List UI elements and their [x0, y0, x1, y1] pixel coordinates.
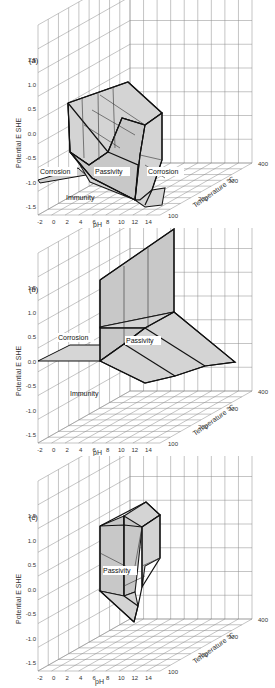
tick-label: -0.5 — [26, 611, 37, 617]
tick-label: 2 — [65, 675, 69, 681]
tick-label: -2 — [37, 675, 43, 681]
tick-label: 0.5 — [28, 562, 37, 568]
tick-label: 0 — [52, 675, 56, 681]
tick-label: 14 — [145, 219, 152, 225]
tick-label: 8 — [106, 219, 110, 225]
region-label-passivity: Passivity — [95, 168, 123, 176]
tick-label: 0 — [52, 219, 56, 225]
tick-label: -1.5 — [26, 432, 37, 438]
tick-label: -0.5 — [26, 155, 37, 161]
y-axis-ticks: 1.51.00.50.0-0.5-1.0-1.5 — [26, 513, 37, 666]
passivity-surface — [100, 229, 235, 383]
tick-label: -1.0 — [26, 180, 37, 186]
tick-label: 4 — [79, 447, 83, 453]
tick-label: 1.0 — [28, 538, 37, 544]
tick-label: 14 — [145, 675, 152, 681]
tick-label: 100 — [168, 213, 179, 219]
y-axis-label: Potential E SHE — [15, 345, 22, 396]
tick-label: 1.0 — [28, 82, 37, 88]
tick-label: 0.0 — [28, 359, 37, 365]
panel-b: Corrosion Passivity Immunity (b) 1.51.00… — [0, 228, 275, 456]
y-axis-label: Potential E SHE — [15, 117, 22, 168]
region-label-corrosion: Corrosion — [58, 334, 88, 341]
tick-label: 0.5 — [28, 106, 37, 112]
pourbaix-3d-chart-c: Passivity (c) 1.51.00.50.0-0.5-1.0-1.5 -… — [0, 456, 275, 688]
tick-label: 1.0 — [28, 310, 37, 316]
tick-label: 10 — [118, 447, 125, 453]
y-axis-ticks: 1.51.00.50.0-0.5-1.0-1.5 — [26, 57, 37, 210]
passivity-surface — [100, 502, 160, 622]
region-label-passivity: Passivity — [126, 337, 154, 345]
region-label-immunity: Immunity — [70, 390, 99, 398]
panel-c: Passivity (c) 1.51.00.50.0-0.5-1.0-1.5 -… — [0, 456, 275, 688]
tick-label: -1.5 — [26, 204, 37, 210]
tick-label: 4 — [79, 219, 83, 225]
y-axis-label: Potential E SHE — [15, 573, 22, 624]
x-axis-label: pH — [93, 221, 102, 228]
region-label-corrosion-right: Corrosion — [148, 168, 178, 175]
tick-label: 0.5 — [28, 334, 37, 340]
tick-label: 1.5 — [28, 285, 37, 291]
tick-label: 400 — [258, 617, 269, 623]
region-label-corrosion-left: Corrosion — [40, 168, 70, 175]
tick-label: 10 — [118, 675, 125, 681]
tick-label: 100 — [168, 669, 179, 675]
tick-label: 100 — [168, 441, 179, 447]
tick-label: 12 — [132, 447, 139, 453]
region-label-immunity: Immunity — [66, 194, 95, 202]
tick-label: 400 — [258, 389, 269, 395]
tick-label: 400 — [258, 161, 269, 167]
x-axis-label: pH — [95, 678, 104, 686]
tick-label: -2 — [37, 447, 43, 453]
tick-label: 1.5 — [28, 57, 37, 63]
pourbaix-3d-chart-b: Corrosion Passivity Immunity (b) 1.51.00… — [0, 228, 275, 456]
region-label-passivity: Passivity — [103, 567, 131, 575]
tick-label: 12 — [132, 675, 139, 681]
tick-label: 2 — [65, 219, 69, 225]
tick-label: 8 — [106, 675, 110, 681]
tick-label: -2 — [37, 219, 43, 225]
tick-label: -1.5 — [26, 660, 37, 666]
tick-label: 0 — [52, 447, 56, 453]
pourbaix-3d-chart-a: Corrosion Passivity Corrosion Immunity (… — [0, 0, 275, 228]
tick-label: 8 — [106, 447, 110, 453]
tick-label: 1.5 — [28, 513, 37, 519]
tick-label: -1.0 — [26, 636, 37, 642]
tick-label: -1.0 — [26, 408, 37, 414]
tick-label: 4 — [79, 675, 83, 681]
tick-label: 0.0 — [28, 131, 37, 137]
panel-a: Corrosion Passivity Corrosion Immunity (… — [0, 0, 275, 228]
x-axis-label: pH — [93, 449, 102, 456]
tick-label: 10 — [118, 219, 125, 225]
tick-label: -0.5 — [26, 383, 37, 389]
passivity-surface — [68, 82, 165, 207]
tick-label: 12 — [132, 219, 139, 225]
tick-label: 2 — [65, 447, 69, 453]
tick-label: 14 — [145, 447, 152, 453]
tick-label: 0.0 — [28, 587, 37, 593]
y-axis-ticks: 1.51.00.50.0-0.5-1.0-1.5 — [26, 285, 37, 438]
